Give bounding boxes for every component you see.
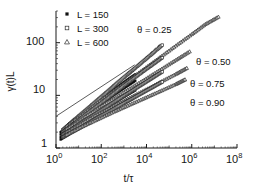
series--0-50-l-600	[65, 50, 191, 131]
x-tick-label-1: 102	[91, 152, 107, 165]
y-tick-label-10: 10	[33, 84, 45, 95]
annotation-theta-025: θ = 0.25	[137, 25, 172, 35]
point-marker	[161, 81, 164, 84]
legend-item-l300: L = 300	[77, 24, 109, 34]
x-tick-label-2: 104	[136, 152, 152, 165]
annotation-theta-090: θ = 0.90	[190, 98, 225, 108]
x-axis-label: t/τ	[0, 172, 257, 184]
x-tick-exp-2: 4	[148, 151, 152, 160]
point-marker	[65, 26, 69, 30]
x-tick-mantissa-3: 10	[181, 153, 193, 165]
point-marker	[188, 50, 192, 53]
x-tick-mantissa-1: 10	[91, 153, 103, 165]
annotation-theta-050: θ = 0.50	[196, 57, 231, 67]
x-tick-exp-3: 6	[193, 151, 197, 160]
legend-item-l150: L = 150	[77, 10, 109, 20]
annotation-theta-075: θ = 0.75	[190, 79, 225, 89]
point-marker	[161, 56, 164, 59]
point-marker	[65, 40, 70, 44]
x-tick-mantissa-2: 10	[136, 153, 148, 165]
point-marker	[161, 44, 164, 47]
x-tick-mantissa-0: 10	[46, 153, 58, 165]
point-marker	[65, 12, 68, 15]
figure-panel: 100 10 1 γ(t)L 100 102 104 106 108 t/τ L…	[0, 0, 257, 192]
x-tick-exp-0: 0	[58, 151, 62, 160]
y-tick-label-1: 1	[41, 138, 47, 149]
x-tick-label-0: 100	[46, 152, 62, 165]
x-tick-label-4: 108	[226, 152, 242, 165]
y-tick-label-100: 100	[26, 36, 44, 47]
y-axis-label: γ(t)L	[5, 59, 16, 105]
x-tick-exp-1: 2	[103, 151, 107, 160]
legend-markers	[65, 12, 70, 44]
plot-canvas	[0, 0, 257, 192]
legend-item-l600: L = 600	[77, 38, 109, 48]
point-marker	[161, 71, 164, 74]
x-tick-mantissa-4: 10	[226, 153, 238, 165]
x-tick-label-3: 106	[181, 152, 197, 165]
x-tick-exp-4: 8	[238, 151, 242, 160]
